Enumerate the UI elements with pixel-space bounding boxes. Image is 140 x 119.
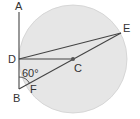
- label-A: A: [15, 0, 23, 12]
- label-E: E: [123, 22, 130, 34]
- center-point-C: [71, 57, 75, 61]
- angle-label: 60°: [22, 67, 39, 79]
- label-F: F: [30, 83, 37, 95]
- label-C: C: [74, 62, 82, 74]
- label-D: D: [8, 53, 16, 65]
- geometry-diagram: A D B C E F 60°: [0, 0, 140, 119]
- label-B: B: [13, 92, 20, 104]
